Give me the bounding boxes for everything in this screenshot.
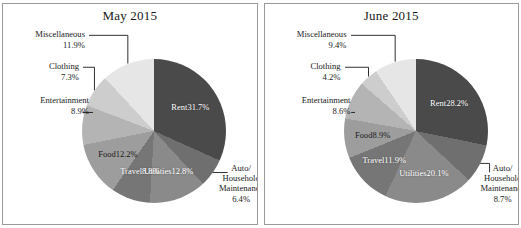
slice-outer-label: Auto/HouseholdMaintenance8.7%	[480, 163, 519, 204]
slice-label-name: Travel	[120, 166, 142, 176]
slice-label-value: 12.2%	[116, 149, 138, 159]
slice-label: Travel11.9%	[362, 155, 406, 165]
slice-label: Utilities20.1%	[399, 168, 448, 178]
slice-label-value: 8.6%	[302, 105, 351, 115]
slice-outer-label: Miscellaneous11.9%	[35, 29, 85, 50]
slice-label-value: 8.7%	[480, 194, 519, 204]
slice-label-name: Clothing	[49, 61, 79, 71]
slice-label-value: 4.2%	[310, 71, 340, 81]
slice-label-value: 8.9%	[40, 105, 89, 115]
chart-panel-may: May 2015 Rent31.7%Auto/HouseholdMaintena…	[2, 3, 258, 225]
slice-label-value: 20.1%	[427, 168, 449, 178]
slice-label-name: Clothing	[310, 61, 340, 71]
slice-label-name: Utilities	[399, 168, 426, 178]
slice-label-value: 8.9%	[373, 130, 391, 140]
slice-label: Food8.9%	[355, 130, 390, 140]
slice-label-name: Travel	[362, 155, 384, 165]
slice-label-name: Rent	[171, 102, 187, 112]
slice-label-name: Entertainment	[40, 95, 89, 105]
pie-chart-june: Rent28.2%Auto/HouseholdMaintenance8.7%Ut…	[265, 4, 519, 224]
slice-label-name: Entertainment	[302, 95, 351, 105]
slice-label-value: 12.8%	[171, 166, 193, 176]
slice-label-name: Auto/	[219, 163, 258, 173]
slice-label-name: Food	[355, 130, 372, 140]
slice-label-value: 28.2%	[446, 98, 468, 108]
slice-label: Food12.2%	[98, 149, 137, 159]
pie-chart-figure: May 2015 Rent31.7%Auto/HouseholdMaintena…	[0, 0, 521, 228]
pie-chart-may: Rent31.7%Auto/HouseholdMaintenance6.4%Ut…	[3, 4, 257, 224]
slice-label-name: Maintenance	[480, 184, 519, 194]
slice-label-name: Miscellaneous	[297, 29, 347, 39]
slice-label-name: Auto/	[480, 163, 519, 173]
slice-outer-label: Entertainment8.9%	[40, 95, 89, 116]
slice-outer-label: Miscellaneous9.4%	[297, 29, 347, 50]
slice-label: Rent31.7%	[171, 102, 209, 112]
slice-label-value: 7.3%	[49, 71, 79, 81]
slice-label-name: Miscellaneous	[35, 29, 85, 39]
slice-outer-label: Clothing7.3%	[49, 61, 79, 82]
slice-label-value: 11.9%	[384, 155, 406, 165]
slice-label-name: Food	[98, 149, 115, 159]
slice-outer-label: Clothing4.2%	[310, 61, 340, 82]
slice-label-value: 9.4%	[297, 39, 347, 49]
chart-panel-june: June 2015 Rent28.2%Auto/HouseholdMainten…	[264, 3, 520, 225]
slice-label: Travel8.8%	[120, 166, 160, 176]
slice-label-name: Rent	[430, 98, 446, 108]
slice-label-name: Household	[480, 174, 519, 184]
slice-outer-label: Auto/HouseholdMaintenance6.4%	[219, 163, 258, 204]
pie-body	[82, 59, 226, 203]
slice-label-name: Household	[219, 174, 258, 184]
slice-label-value: 31.7%	[187, 102, 209, 112]
slice-label-value: 6.4%	[219, 194, 258, 204]
slice-outer-label: Entertainment8.6%	[302, 95, 351, 116]
slice-label-value: 11.9%	[35, 39, 85, 49]
slice-label: Rent28.2%	[430, 98, 468, 108]
slice-label-name: Maintenance	[219, 184, 258, 194]
slice-label-value: 8.8%	[142, 166, 160, 176]
